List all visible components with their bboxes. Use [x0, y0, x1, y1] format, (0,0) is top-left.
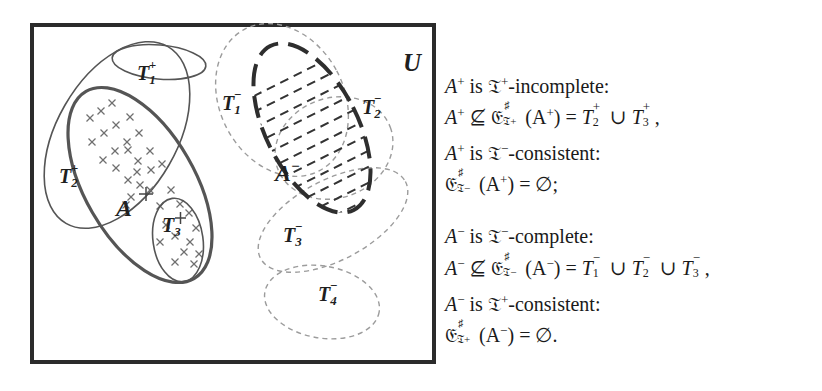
label-a-minus: A−: [273, 158, 300, 186]
positive-line-4: 𝔈♯𝔗−(A+) = ∅;: [445, 174, 558, 194]
hatch-dash-line: [240, 172, 390, 247]
label-a-plus: A: [114, 195, 132, 221]
label-t3-minus: T3−: [283, 219, 303, 249]
universe-label: U: [403, 49, 423, 76]
region-t3-minus: [242, 146, 424, 294]
label-t2-plus: T2+: [59, 160, 78, 190]
negative-line-3: A− is 𝔗+-consistent:: [445, 294, 600, 314]
positive-line-1: A+ is 𝔗+-incomplete:: [445, 76, 609, 96]
set-diagram: U T1+ T2+ A T3 T1− A− T2− T3− T4−: [0, 0, 822, 391]
hatch-dash-line: [240, 28, 390, 103]
label-t1-minus: T1−: [222, 87, 242, 117]
positive-line-3: A+ is 𝔗−-consistent:: [445, 143, 600, 163]
region-a-minus: [229, 25, 395, 231]
region-t2-minus: [261, 80, 408, 215]
region-t3-plus: [147, 195, 208, 285]
negative-line-2: A− ⊈ 𝔈♯𝔗−(A−) = T−1 ∪ T−2 ∪ T−3,: [445, 258, 710, 278]
label-t1-plus: T1+: [137, 57, 156, 87]
universe-frame: [32, 25, 434, 362]
label-t4-minus: T4−: [318, 278, 338, 308]
label-t2-minus: T2−: [362, 91, 382, 121]
negative-line-1: A− is 𝔗−-complete:: [445, 226, 594, 246]
negative-line-4: 𝔈♯𝔗+(A−) = ∅.: [445, 325, 557, 345]
region-t1-plus: [111, 41, 208, 83]
hatch-dash-line: [240, 188, 390, 263]
positive-line-2: A+ ⊈ 𝔈♯𝔗+(A+) = T+2 ∪ T+3,: [445, 107, 660, 127]
